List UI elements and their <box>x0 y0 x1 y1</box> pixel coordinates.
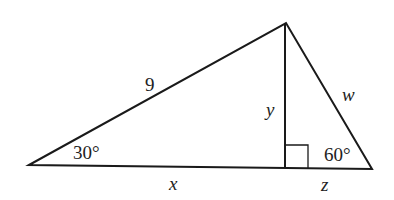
label-side-w: w <box>342 84 355 105</box>
label-altitude-y: y <box>264 99 275 120</box>
right-angle-marker <box>285 145 308 168</box>
label-base-z: z <box>320 174 329 195</box>
label-base-x: x <box>168 173 178 194</box>
label-hypotenuse-9: 9 <box>145 74 155 95</box>
label-angle-30: 30° <box>73 142 100 163</box>
label-angle-60: 60° <box>324 144 351 165</box>
triangle-diagram: 9 y w x z 30° 60° <box>0 0 394 200</box>
